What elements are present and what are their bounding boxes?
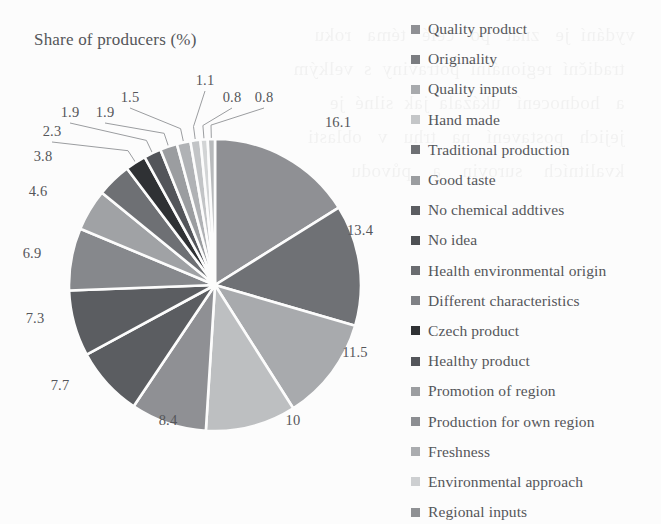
legend-swatch-icon [411, 25, 420, 34]
legend-item[interactable]: Hand made [411, 105, 661, 135]
legend-swatch-icon [411, 206, 420, 215]
legend-item[interactable]: Freshness [411, 437, 661, 467]
legend-swatch-icon [411, 145, 420, 154]
legend-item-label: Health environmental origin [428, 262, 606, 280]
pie-value-label: 1.9 [96, 104, 115, 121]
legend-item[interactable]: Different characteristics [411, 286, 661, 316]
pie-label-leader-line [211, 108, 264, 141]
pie-value-label: 8.4 [159, 412, 178, 429]
legend-swatch-icon [411, 326, 420, 335]
legend-item-label: No chemical addtives [428, 201, 564, 219]
legend-swatch-icon [411, 357, 420, 366]
legend-swatch-icon [411, 55, 420, 64]
legend-swatch-icon [411, 447, 420, 456]
pie-value-label: 10 [286, 412, 301, 429]
pie-label-leader-line [203, 108, 232, 141]
pie-value-label: 7.7 [51, 377, 70, 394]
pie-label-leader-line [52, 142, 137, 164]
pie-value-label: 7.3 [26, 310, 45, 327]
legend-item[interactable]: Promotion of region [411, 376, 661, 406]
pie-value-label: 0.8 [255, 89, 274, 106]
legend-item[interactable]: Czech product [411, 316, 661, 346]
legend-item-label: Good taste [428, 171, 496, 189]
legend-item-label: Production for own region [428, 413, 595, 431]
legend-swatch-icon [411, 417, 420, 426]
legend-swatch-icon [411, 508, 420, 517]
legend-item[interactable]: Healthy product [411, 346, 661, 376]
legend-swatch-icon [411, 266, 420, 275]
legend-item[interactable]: Quality product [411, 14, 661, 44]
legend-item-label: Promotion of region [428, 382, 556, 400]
legend-item[interactable]: Quality inputs [411, 74, 661, 104]
legend-item-label: Originality [428, 50, 497, 68]
legend-item[interactable]: Health environmental origin [411, 256, 661, 286]
pie-value-label: 6.9 [23, 245, 42, 262]
pie-value-label: 1.1 [196, 72, 215, 89]
pie-value-label: 13.4 [347, 222, 373, 239]
pie-value-label: 0.8 [223, 89, 242, 106]
legend-swatch-icon [411, 85, 420, 94]
pie-chart: 16.113.411.5108.47.77.36.94.63.82.31.91.… [0, 0, 420, 506]
legend-item[interactable]: No chemical addtives [411, 195, 661, 225]
pie-value-label: 3.8 [34, 148, 53, 165]
pie-value-label: 1.5 [121, 89, 140, 106]
pie-value-label: 1.9 [61, 104, 80, 121]
legend-item-label: Quality product [428, 20, 527, 38]
legend-item-label: No idea [428, 231, 477, 249]
legend-item[interactable]: Production for own region [411, 406, 661, 436]
legend-item[interactable]: Environmental approach [411, 467, 661, 497]
pie-value-label: 2.3 [43, 123, 62, 140]
legend-item-label: Different characteristics [428, 292, 580, 310]
pie-value-label: 11.5 [342, 344, 368, 361]
legend-item-label: Traditional production [428, 141, 570, 159]
legend-swatch-icon [411, 115, 420, 124]
legend-item[interactable]: Regional inputs [411, 497, 661, 524]
legend-swatch-icon [411, 477, 420, 486]
legend-swatch-icon [411, 176, 420, 185]
legend-item-label: Healthy product [428, 352, 530, 370]
legend-item-label: Czech product [428, 322, 519, 340]
pie-label-leader-line [70, 123, 153, 155]
pie-label-leader-line [105, 123, 169, 149]
legend-item[interactable]: Traditional production [411, 135, 661, 165]
pie-value-label: 4.6 [29, 183, 48, 200]
legend-swatch-icon [411, 236, 420, 245]
legend-item-label: Environmental approach [428, 473, 583, 491]
legend-item[interactable]: Good taste [411, 165, 661, 195]
legend-item[interactable]: No idea [411, 225, 661, 255]
legend-swatch-icon [411, 296, 420, 305]
legend-item[interactable]: Originality [411, 44, 661, 74]
legend-swatch-icon [411, 387, 420, 396]
legend-item-label: Freshness [428, 443, 490, 461]
pie-value-label: 16.1 [325, 114, 351, 131]
legend-item-label: Hand made [428, 111, 500, 129]
legend-item-label: Quality inputs [428, 80, 518, 98]
pie-slices-group [69, 139, 361, 431]
legend-item-label: Regional inputs [428, 503, 527, 521]
chart-legend: Quality productOriginalityQuality inputs… [411, 14, 661, 524]
